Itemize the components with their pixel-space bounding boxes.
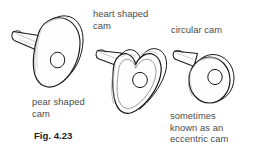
label-pear-shaped-cam: pear shaped cam <box>32 96 85 119</box>
figure-caption: Fig. 4.23 <box>34 130 72 141</box>
label-heart-shaped-cam: heart shaped cam <box>93 8 148 31</box>
circular-cam-hole <box>208 69 222 84</box>
heart-cam-hole <box>133 72 148 87</box>
label-eccentric-cam-note: sometimes known as an eccentric cam <box>170 110 228 145</box>
pear-cam-hole <box>50 52 64 68</box>
pear-cam-drawing <box>12 16 83 87</box>
circular-cam-shaft <box>173 50 197 66</box>
figure-canvas: heart shaped cam circular cam pear shape… <box>0 0 255 158</box>
label-circular-cam: circular cam <box>171 24 222 36</box>
circular-cam-drawing <box>173 50 234 103</box>
heart-cam-drawing <box>96 49 167 114</box>
